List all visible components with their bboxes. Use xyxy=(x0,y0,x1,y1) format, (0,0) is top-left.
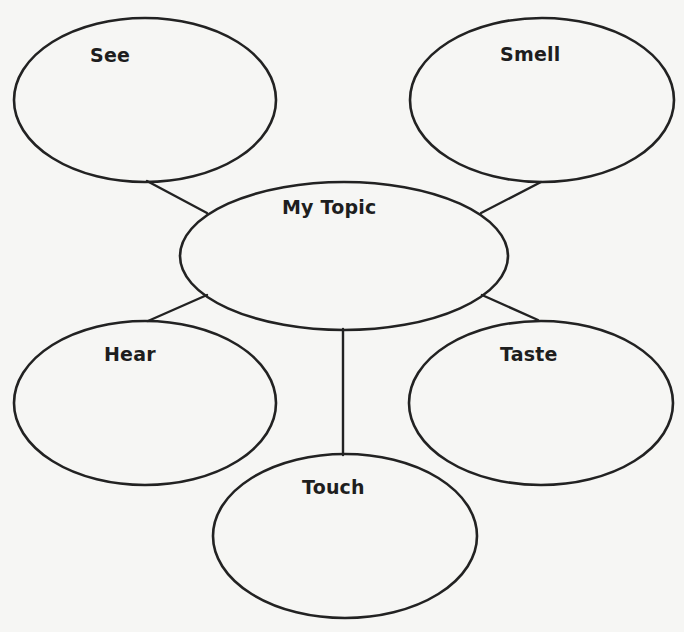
label-center-topic: My Topic xyxy=(282,198,376,217)
connector-taste xyxy=(482,295,538,320)
connector-smell xyxy=(481,182,541,213)
web-diagram xyxy=(0,0,684,632)
connector-see xyxy=(147,181,207,213)
connector-hear xyxy=(148,295,207,321)
bubble-see xyxy=(14,18,276,182)
label-taste: Taste xyxy=(500,345,558,364)
label-touch: Touch xyxy=(302,478,365,497)
label-hear: Hear xyxy=(104,345,156,364)
label-smell: Smell xyxy=(500,45,560,64)
label-see: See xyxy=(90,46,130,65)
